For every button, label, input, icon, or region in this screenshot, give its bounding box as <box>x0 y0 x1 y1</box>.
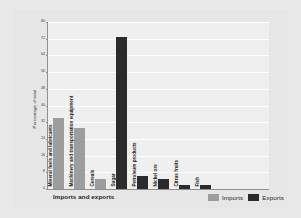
chart-figure: Percentage of total 80726456484032241680… <box>13 10 288 208</box>
plot-area: 80726456484032241680 Mineral fuels and l… <box>47 22 269 190</box>
bar <box>53 118 64 189</box>
bar-category-label: Machinery and transportation equipment <box>70 96 75 187</box>
bar-category-label: Fish <box>196 177 201 187</box>
bar-category-label: Citrus fruits <box>175 160 180 187</box>
y-axis-tick-label: 0 <box>43 187 45 191</box>
y-axis-tick-label: 8 <box>43 171 45 175</box>
y-axis-tick-label: 72 <box>41 37 45 41</box>
bar <box>95 179 106 189</box>
bar <box>116 37 127 189</box>
y-axis-tick-label: 48 <box>41 87 45 91</box>
bar-group: Mineral fuels and lubricantsMachinery an… <box>48 22 269 189</box>
bar-category-label: Nickel ore <box>154 165 159 187</box>
y-axis-tick-label: 56 <box>41 70 45 74</box>
bar-category-label: Cereals <box>91 170 96 187</box>
y-axis-tick-label: 40 <box>41 104 45 108</box>
bar <box>158 179 169 189</box>
bar-category-label: Sugar <box>112 174 117 187</box>
y-axis-tick-label: 16 <box>41 154 45 158</box>
y-axis-tick-label: 24 <box>41 137 45 141</box>
legend-label-exports: Exports <box>262 194 284 201</box>
y-axis-tick-label: 80 <box>41 20 45 24</box>
y-axis-title: Percentage of total <box>32 90 37 129</box>
legend-item-imports: Imports <box>208 194 243 201</box>
bar <box>74 128 85 189</box>
bar <box>137 176 148 189</box>
y-axis-tick-mark <box>46 189 48 190</box>
y-axis-tick-label: 32 <box>41 120 45 124</box>
legend-swatch-imports <box>208 194 219 201</box>
legend-swatch-exports <box>248 194 259 201</box>
bar <box>179 185 190 189</box>
y-axis-tick-label: 64 <box>41 54 45 58</box>
bar <box>200 185 211 189</box>
chart-legend: Imports Exports <box>208 194 284 201</box>
bar-category-label: Mineral fuels and lubricants <box>49 125 54 187</box>
bar-category-label: Petroleum products <box>133 143 138 187</box>
x-axis-title: Imports and exports <box>53 193 114 200</box>
legend-item-exports: Exports <box>248 194 284 201</box>
legend-label-imports: Imports <box>222 194 243 201</box>
